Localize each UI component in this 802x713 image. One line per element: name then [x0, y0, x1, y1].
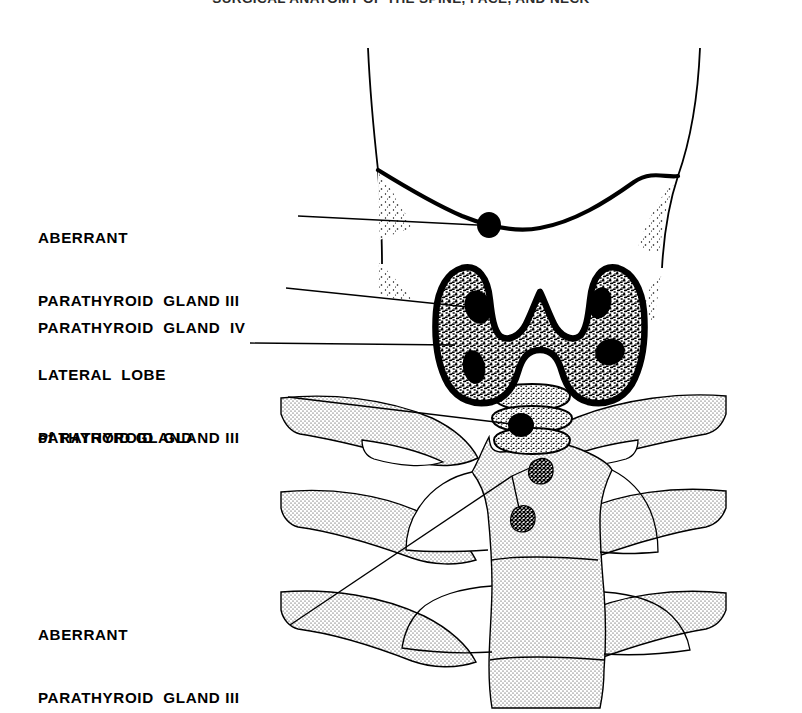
- aberrant-parathyroid-gland-iii-suprahyoid: [477, 212, 501, 238]
- neck-border-right: [662, 48, 700, 268]
- rib-left-3: [281, 591, 476, 667]
- thyroid-gland-outline: [436, 267, 645, 403]
- submandibular-shading-left-lower: [378, 262, 412, 300]
- head-neck-outline: [368, 48, 700, 322]
- aberrant-parathyroid-mediastinal-lower: [511, 506, 536, 532]
- label-line-1: ABERRANT: [38, 227, 240, 248]
- thyroid-gland: [436, 267, 645, 403]
- label-line-2: PARATHYROID GLAND III: [38, 687, 240, 708]
- leader-line-lateral-lobe: [250, 343, 455, 345]
- label-parathyroid-gland-iii: PARATHYROID GLAND III: [38, 385, 240, 490]
- mandible-outline: [378, 170, 678, 230]
- label-line-1: PARATHYROID GLAND III: [38, 427, 240, 448]
- label-line-1: LATERAL LOBE: [38, 364, 193, 385]
- figure-page: SURGICAL ANATOMY OF THE SPINE, FACE, AND…: [0, 0, 802, 713]
- submandibular-shading-right: [638, 178, 676, 252]
- parathyroid-gland-iii-tracheal: [508, 413, 534, 437]
- label-line-1: ABERRANT: [38, 624, 240, 645]
- label-aberrant-parathyroid-gland-iii-bottom: ABERRANT PARATHYROID GLAND III: [38, 582, 240, 713]
- trachea-ring-3: [494, 428, 570, 454]
- aberrant-parathyroid-mediastinal-upper: [529, 458, 554, 484]
